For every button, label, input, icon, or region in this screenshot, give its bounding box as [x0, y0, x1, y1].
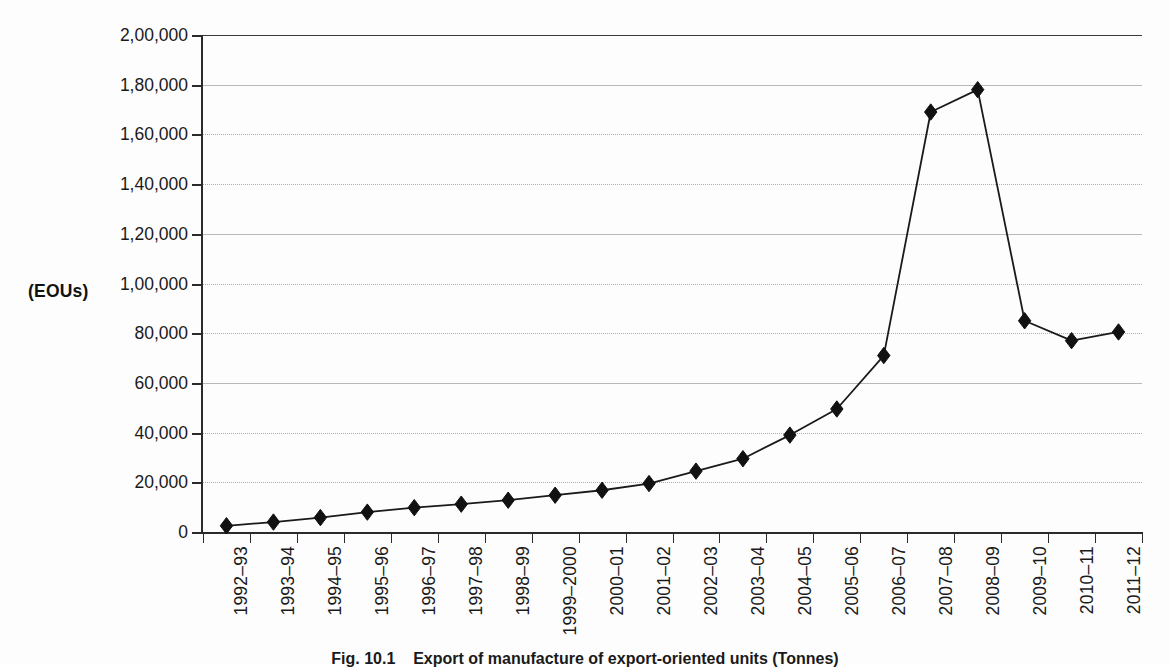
data-point-marker: [971, 81, 983, 97]
x-axis-label-2001-02: 2001–02: [654, 546, 675, 616]
y-axis-tick-label-160000: 1,60,000: [30, 124, 188, 145]
y-axis-tick-label-140000: 1,40,000: [30, 174, 188, 195]
x-axis-label-2010-11: 2010–11: [1077, 546, 1098, 614]
x-axis-tick-15: [907, 532, 908, 543]
x-axis-tick-14: [860, 532, 861, 543]
x-axis-tick-0: [203, 532, 204, 543]
y-axis-tick-label-0: 0: [30, 522, 188, 543]
data-point-marker: [925, 104, 937, 120]
x-axis-label-1994-95: 1994–95: [325, 546, 346, 616]
series-polyline: [226, 90, 1118, 526]
x-axis-tick-4: [391, 532, 392, 543]
x-axis-label-2002-03: 2002–03: [701, 546, 722, 616]
data-point-marker: [314, 509, 326, 525]
x-axis-label-2011-12: 2011–12: [1124, 546, 1145, 614]
x-axis-label-2005-06: 2005–06: [842, 546, 863, 616]
x-axis-label-1993-94: 1993–94: [278, 546, 299, 616]
x-axis-label-2004-05: 2004–05: [795, 546, 816, 616]
y-axis-tick-0: [192, 532, 201, 534]
y-axis-tick-label-20000: 20,000: [30, 472, 188, 493]
x-axis-tick-5: [438, 532, 439, 543]
x-axis-label-1998-99: 1998–99: [513, 546, 534, 616]
plot-area: [201, 35, 1142, 534]
data-point-marker: [737, 450, 749, 466]
y-axis-tick-label-200000: 2,00,000: [30, 25, 188, 46]
x-axis-label-1995-96: 1995–96: [372, 546, 393, 616]
x-axis-tick-9: [626, 532, 627, 543]
y-axis-tick-200000: [192, 35, 201, 37]
x-axis-label-1996-97: 1996–97: [419, 546, 440, 616]
x-axis-tick-13: [813, 532, 814, 543]
y-axis-tick-180000: [192, 85, 201, 87]
x-axis-tick-18: [1048, 532, 1049, 543]
data-point-marker: [643, 475, 655, 491]
x-axis-tick-3: [344, 532, 345, 543]
y-axis-tick-80000: [192, 333, 201, 335]
x-axis-label-2000-01: 2000–01: [607, 546, 628, 616]
y-axis-tick-160000: [192, 134, 201, 136]
data-point-marker: [220, 518, 232, 534]
x-axis-tick-20: [1142, 532, 1143, 543]
data-point-marker: [502, 492, 514, 508]
y-axis-tick-label-180000: 1,80,000: [30, 74, 188, 95]
x-axis-tick-16: [954, 532, 955, 543]
x-axis-label-2006-07: 2006–07: [889, 546, 910, 616]
data-point-marker: [408, 499, 420, 515]
data-point-marker: [784, 427, 796, 443]
y-axis-tick-140000: [192, 184, 201, 186]
data-point-marker: [596, 482, 608, 498]
y-axis-tick-label-40000: 40,000: [30, 422, 188, 443]
y-axis-tick-60000: [192, 383, 201, 385]
data-point-marker: [1112, 324, 1124, 340]
x-axis-label-2008-09: 2008–09: [983, 546, 1004, 616]
data-series-line: [203, 35, 1142, 532]
y-axis-tick-100000: [192, 284, 201, 286]
x-axis-tick-11: [719, 532, 720, 543]
data-point-marker: [549, 487, 561, 503]
data-point-marker: [690, 463, 702, 479]
x-axis-tick-6: [485, 532, 486, 543]
x-axis-label-2003-04: 2003–04: [748, 546, 769, 616]
data-point-marker: [455, 496, 467, 512]
x-axis-tick-10: [673, 532, 674, 543]
x-axis-tick-2: [297, 532, 298, 543]
data-point-marker: [361, 504, 373, 520]
x-axis-label-1997-98: 1997–98: [466, 546, 487, 616]
data-point-marker: [267, 514, 279, 530]
y-axis-tick-20000: [192, 482, 201, 484]
x-axis-label-1992-93: 1992–93: [231, 546, 252, 616]
x-axis-label-1999-2000: 1999–2000: [560, 546, 581, 635]
y-axis-tick-label-60000: 60,000: [30, 372, 188, 393]
x-axis-label-2007-08: 2007–08: [936, 546, 957, 616]
y-axis-tick-120000: [192, 234, 201, 236]
caption-text: Export of manufacture of export-oriented…: [413, 650, 839, 667]
y-axis-tick-label-80000: 80,000: [30, 323, 188, 344]
x-axis-tick-1: [250, 532, 251, 543]
x-axis-tick-17: [1001, 532, 1002, 543]
caption-number: Fig. 10.1: [331, 650, 395, 667]
data-point-marker: [1018, 313, 1030, 329]
x-axis-tick-12: [766, 532, 767, 543]
x-axis-labels: 1992–931993–941994–951995–961996–971997–…: [201, 546, 1140, 658]
y-axis-tick-label-100000: 1,00,000: [30, 273, 188, 294]
y-axis-tick-40000: [192, 433, 201, 435]
y-axis-tick-label-120000: 1,20,000: [30, 223, 188, 244]
figure-caption: Fig. 10.1 Export of manufacture of expor…: [0, 650, 1170, 668]
data-point-marker: [1065, 332, 1077, 348]
x-axis-tick-7: [532, 532, 533, 543]
x-axis-tick-19: [1095, 532, 1096, 543]
x-axis-label-2009-10: 2009–10: [1030, 546, 1051, 616]
x-axis-tick-8: [579, 532, 580, 543]
